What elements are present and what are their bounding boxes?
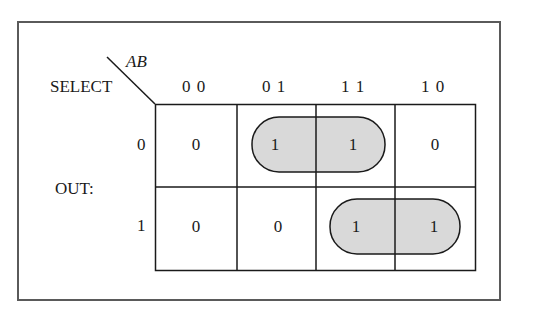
cell-r1-c01: 0 <box>268 217 288 237</box>
cell-r1-c10: 1 <box>424 217 444 237</box>
cell-r0-c01: 1 <box>265 135 285 155</box>
cell-r0-c10: 0 <box>425 135 445 155</box>
row-header-1: 1 <box>137 216 146 236</box>
output-label: OUT: <box>55 179 94 199</box>
cell-r0-c00: 0 <box>186 135 206 155</box>
row-header-0: 0 <box>137 135 146 155</box>
kmap-grid <box>0 0 539 321</box>
cell-r1-c00: 0 <box>186 217 206 237</box>
column-header-10: 1 0 <box>421 77 445 97</box>
cell-r1-c11: 1 <box>346 217 366 237</box>
cell-r0-c11: 1 <box>343 135 363 155</box>
column-header-00: 0 0 <box>182 77 206 97</box>
column-header-01: 0 1 <box>262 77 286 97</box>
column-header-11: 1 1 <box>341 77 365 97</box>
column-variable-label: AB <box>126 52 147 72</box>
row-variable-label: SELECT <box>50 77 112 97</box>
